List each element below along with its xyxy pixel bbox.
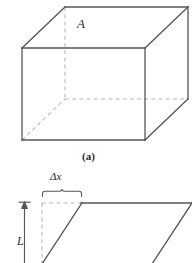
cube-group: [22, 7, 188, 140]
shear-deformed-outline: [42, 203, 192, 263]
cube-hidden-edges: [22, 7, 188, 140]
length-dimension-arrow: [19, 202, 31, 263]
figure-drawing: [0, 0, 192, 263]
panel-a-caption: (a): [82, 151, 95, 162]
cube-top-left-diagonal-edge: [22, 7, 65, 48]
shear-left-slanted-edge: [42, 203, 82, 263]
shear-right-slanted-edge: [152, 203, 192, 263]
cube-bottom-right-diagonal-edge: [145, 99, 188, 140]
cube-visible-edges: [22, 7, 188, 140]
shear-diagram-group: [19, 189, 193, 263]
length-label: L: [17, 235, 24, 247]
cube-top-right-diagonal-edge: [145, 7, 188, 48]
delta-x-label: Δx: [50, 171, 61, 182]
cube-hidden-bottom-diagonal-edge: [22, 99, 65, 140]
delta-x-brace: [43, 189, 82, 197]
cube-area-label: A: [77, 17, 85, 30]
figure-container: A (a) Δx L: [0, 0, 192, 263]
